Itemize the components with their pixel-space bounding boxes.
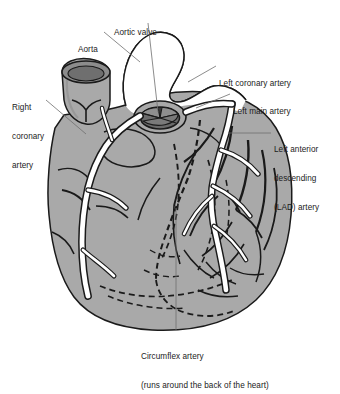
label-circumflex-line-1: Circumflex artery xyxy=(141,352,269,362)
leader-left-coronary-artery xyxy=(188,66,216,82)
label-aorta: Aorta xyxy=(78,26,98,64)
label-rca-line-1: Right xyxy=(12,103,44,113)
label-lad-line-1: Left anterior xyxy=(274,145,319,155)
label-aortic-valve-line-1: Aortic valve xyxy=(114,28,157,38)
label-aortic-valve: Aortic valve xyxy=(114,9,157,47)
label-lad-line-2: descending xyxy=(274,174,319,184)
label-left-anterior-descending-artery: Left anterior descending (LAD) artery xyxy=(274,126,319,222)
label-circumflex-artery: Circumflex artery (runs around the back … xyxy=(141,333,269,394)
label-left-main-artery: Left main artery xyxy=(233,88,291,126)
label-right-coronary-artery: Right coronary artery xyxy=(12,84,44,180)
label-left-main-artery-line-1: Left main artery xyxy=(233,107,291,117)
label-rca-line-3: artery xyxy=(12,161,44,171)
label-rca-line-2: coronary xyxy=(12,132,44,142)
label-circumflex-line-2: (runs around the back of the heart) xyxy=(141,381,269,391)
label-aorta-line-1: Aorta xyxy=(78,45,98,55)
label-lad-line-3: (LAD) artery xyxy=(274,203,319,213)
